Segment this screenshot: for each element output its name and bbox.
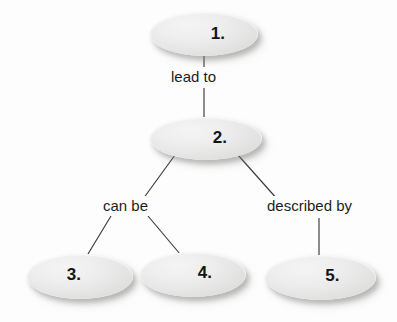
connector-label-can-be-to-node3 (88, 216, 111, 254)
diagram-node-5-label: 5. (325, 267, 340, 284)
diagram-node-2[interactable]: 2. (150, 117, 262, 160)
diagram-node-3-label: 3. (67, 266, 82, 283)
diagram-node-1-label: 1. (211, 25, 226, 42)
connector-node2-to-label-can-be (143, 155, 175, 199)
edge-label-can-be: can be (99, 196, 152, 216)
diagram-node-2-label: 2. (213, 129, 228, 146)
diagram-node-1[interactable]: 1. (150, 12, 258, 56)
diagram-node-4[interactable]: 4. (140, 252, 246, 297)
edge-label-described-by: described by (263, 196, 356, 216)
connector-node2-to-label-described-by (238, 155, 278, 200)
connector-label-can-be-to-node4 (148, 216, 180, 254)
diagram-node-3[interactable]: 3. (27, 254, 133, 299)
diagram-canvas: 1. 2. 3. 4. 5. lead to can be described … (0, 0, 397, 322)
edge-label-lead-to: lead to (167, 67, 220, 87)
diagram-node-5[interactable]: 5. (265, 255, 376, 300)
diagram-node-4-label: 4. (198, 264, 213, 281)
